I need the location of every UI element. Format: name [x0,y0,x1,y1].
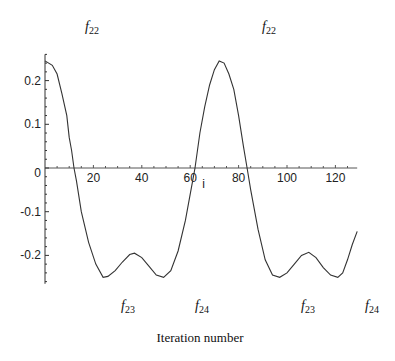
axes [45,54,357,283]
x-tick-label: 100 [277,171,297,185]
data-line [45,61,357,277]
y-tick-label: 0.2 [24,74,41,88]
axis-marker: i [202,177,205,191]
annotation-label: f22 [85,19,99,36]
x-tick-label: 60 [184,171,198,185]
annotation-label: f23 [301,298,315,315]
annotation-label: f24 [365,298,379,315]
annotations: f22f22f23f24f23f24 [85,19,379,315]
x-tick-label: 120 [325,171,345,185]
annotation-label: f23 [121,298,135,315]
y-tick-label: 0 [34,166,41,180]
x-tick-label: 40 [135,171,149,185]
chart: 204060801001200.20.10-0.1-0.2i f22f22f23… [0,0,395,361]
x-axis-label: Iteration number [157,330,245,345]
y-tick-label: 0.1 [24,117,41,131]
y-tick-label: -0.1 [20,205,41,219]
x-tick-label: 80 [232,171,246,185]
y-tick-label: -0.2 [20,248,41,262]
x-tick-label: 20 [87,171,101,185]
annotation-label: f22 [262,19,276,36]
annotation-label: f24 [195,298,209,315]
